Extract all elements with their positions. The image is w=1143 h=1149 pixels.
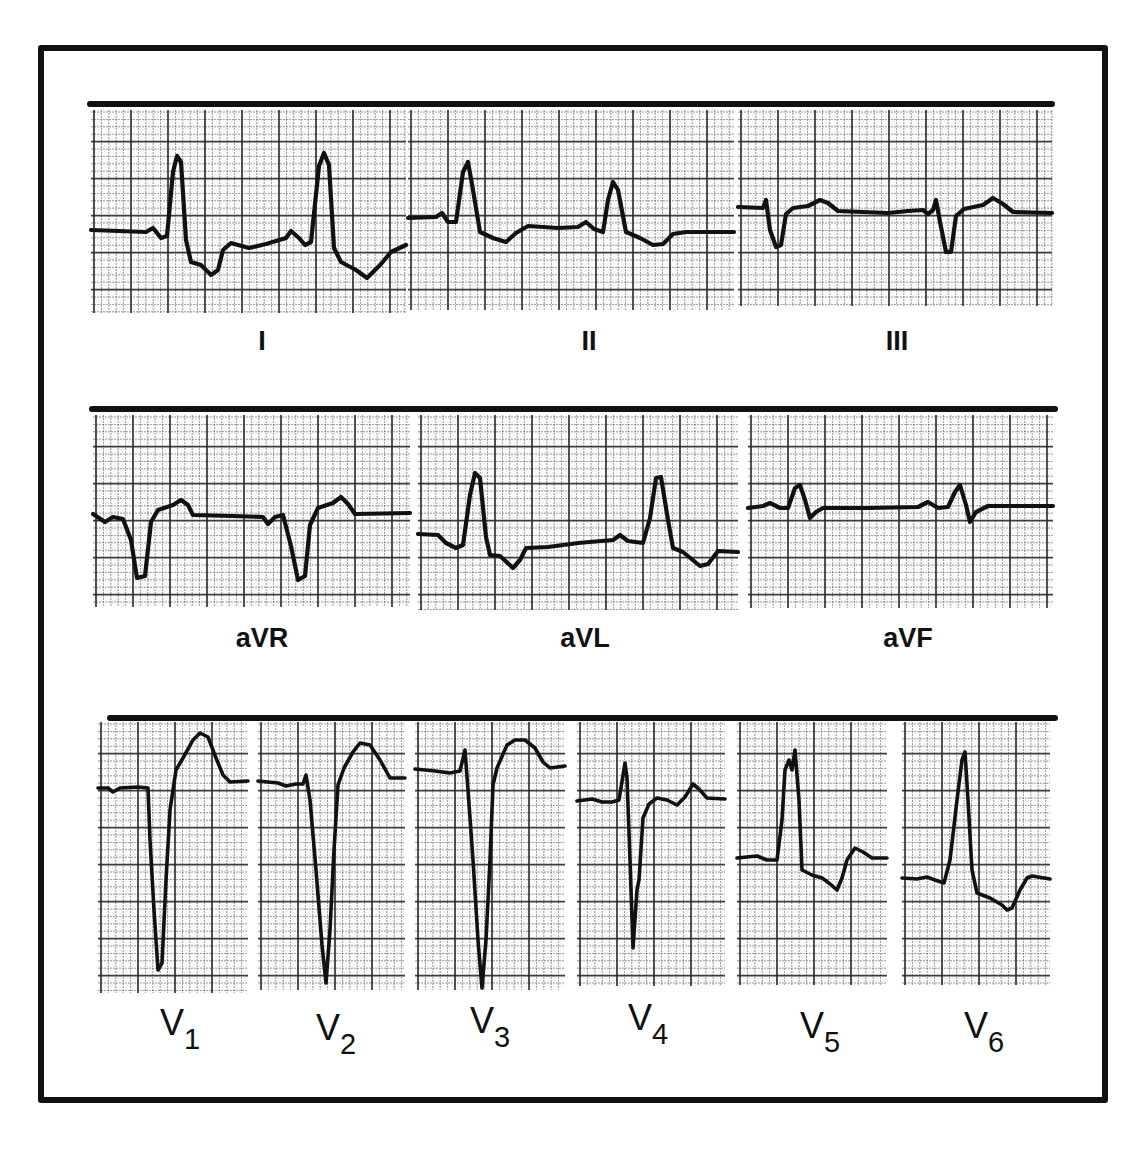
lead-iii-panel xyxy=(738,110,1052,306)
grid-paper xyxy=(748,415,1053,608)
lead-avf-panel xyxy=(748,415,1053,608)
row-precordial-leads xyxy=(98,718,1055,993)
lead-label-v5: V5 xyxy=(800,1005,840,1059)
lead-v4-panel xyxy=(577,722,725,986)
lead-i-panel xyxy=(91,110,406,313)
lead-label-ii: II xyxy=(581,326,596,357)
lead-v1-panel xyxy=(98,722,248,993)
lead-avr-panel xyxy=(93,415,410,607)
lead-v3-panel xyxy=(415,722,565,990)
lead-label-avf: aVF xyxy=(883,623,933,654)
row-standard-limb-leads xyxy=(90,104,1052,313)
lead-label-v6: V6 xyxy=(964,1005,1004,1059)
lead-label-avr: aVR xyxy=(236,623,289,654)
row-augmented-limb-leads xyxy=(92,409,1055,610)
ecg-canvas xyxy=(0,0,1143,1149)
lead-avl-panel xyxy=(418,415,738,610)
lead-ii-panel xyxy=(408,110,734,310)
lead-label-v2: V2 xyxy=(316,1007,356,1061)
grid-paper xyxy=(902,722,1050,985)
lead-label-iii: III xyxy=(886,326,909,357)
lead-v5-panel xyxy=(737,722,887,985)
lead-label-i: I xyxy=(258,326,266,357)
lead-label-v4: V4 xyxy=(628,997,668,1051)
lead-v6-panel xyxy=(902,722,1050,985)
grid-paper xyxy=(577,722,725,986)
lead-label-avl: aVL xyxy=(560,623,610,654)
lead-label-v1: V1 xyxy=(160,1002,200,1056)
lead-v2-panel xyxy=(258,722,405,990)
lead-label-v3: V3 xyxy=(470,1000,510,1054)
